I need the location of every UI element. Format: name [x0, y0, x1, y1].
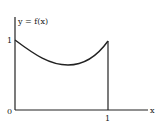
x-axis-label: x: [150, 106, 155, 115]
origin-label: 0: [7, 107, 12, 116]
x-tick-1: 1: [105, 114, 110, 123]
y-axis-label: y = f(x): [17, 17, 48, 26]
function-curve: [15, 40, 108, 65]
y-tick-1: 1: [7, 36, 12, 45]
function-plot: y = f(x) 1 0 1 x: [0, 0, 156, 127]
